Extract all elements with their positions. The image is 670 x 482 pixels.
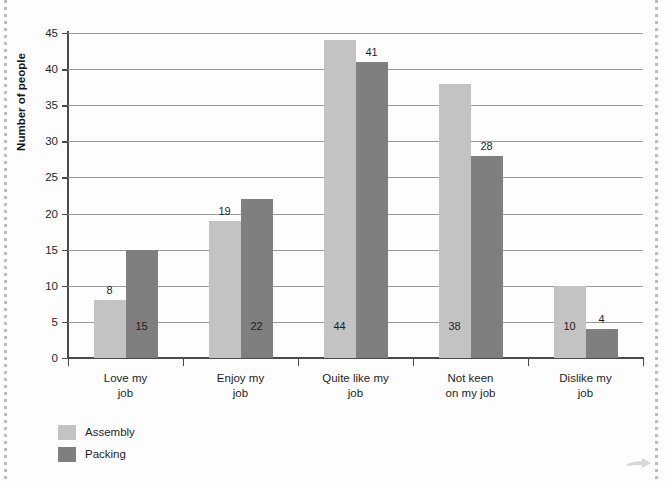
bar-packing[interactable] — [356, 62, 388, 358]
x-tick-mark — [643, 358, 644, 366]
x-category-line: on my job — [406, 386, 536, 401]
bar-packing[interactable] — [241, 199, 273, 358]
y-tick-label: 25 — [18, 171, 58, 183]
x-category-line: job — [176, 386, 306, 401]
legend-swatch — [58, 447, 76, 462]
x-tick-mark — [528, 358, 529, 366]
bar-value-label: 19 — [205, 205, 245, 217]
y-tick-label: 0 — [18, 352, 58, 364]
bar-packing[interactable] — [586, 329, 618, 358]
y-tick-label: 5 — [18, 316, 58, 328]
x-category-line: Quite like my — [291, 371, 421, 386]
x-category-line: job — [521, 386, 651, 401]
y-axis-tick-labels: 454035302520151050 — [0, 0, 58, 482]
bar-assembly[interactable] — [324, 40, 356, 358]
bar-packing[interactable] — [471, 156, 503, 358]
legend-label: Assembly — [85, 426, 135, 438]
x-category-line: job — [291, 386, 421, 401]
y-tick-mark — [62, 177, 67, 178]
y-tick-label: 20 — [18, 208, 58, 220]
y-tick-mark — [62, 214, 67, 215]
y-tick-mark — [62, 69, 67, 70]
bar-value-label: 15 — [122, 320, 162, 332]
y-tick-mark — [62, 33, 67, 34]
bar-value-label: 4 — [582, 313, 622, 325]
bar-group: 815 — [68, 33, 183, 358]
bar-group: 4441 — [298, 33, 413, 358]
bar-value-label: 28 — [467, 140, 507, 152]
chart-page: Number of people 454035302520151050 8151… — [0, 0, 670, 482]
bar-assembly[interactable] — [209, 221, 241, 358]
y-tick-label: 30 — [18, 135, 58, 147]
bar-value-label: 22 — [237, 320, 277, 332]
legend-swatch — [58, 425, 76, 440]
x-category-label: Quite like myjob — [291, 371, 421, 401]
y-tick-mark — [62, 358, 67, 359]
bar-group: 104 — [528, 33, 643, 358]
x-category-label: Love myjob — [61, 371, 191, 401]
legend-label: Packing — [85, 448, 126, 460]
bar-packing[interactable] — [126, 250, 158, 358]
x-category-line: job — [61, 386, 191, 401]
bar-value-label: 38 — [435, 320, 475, 332]
y-tick-label: 45 — [18, 27, 58, 39]
bar-value-label: 8 — [90, 284, 130, 296]
bar-group: 3828 — [413, 33, 528, 358]
x-tick-mark — [413, 358, 414, 366]
x-category-line: Dislike my — [521, 371, 651, 386]
x-tick-mark — [298, 358, 299, 366]
x-tick-mark — [183, 358, 184, 366]
legend-item[interactable]: Packing — [58, 443, 135, 465]
grouped-bar-chart: Number of people 454035302520151050 8151… — [0, 0, 670, 482]
y-tick-label: 40 — [18, 63, 58, 75]
bar-assembly[interactable] — [439, 84, 471, 358]
x-category-line: Not keen — [406, 371, 536, 386]
bar-group: 1922 — [183, 33, 298, 358]
y-tick-mark — [62, 141, 67, 142]
plot-area: 815192244413828104 — [68, 33, 643, 358]
x-tick-mark — [68, 358, 69, 366]
arrow-right-icon — [626, 456, 652, 470]
bar-value-label: 41 — [352, 46, 392, 58]
y-tick-label: 35 — [18, 99, 58, 111]
legend-item[interactable]: Assembly — [58, 421, 135, 443]
y-tick-mark — [62, 286, 67, 287]
y-tick-mark — [62, 250, 67, 251]
x-category-line: Love my — [61, 371, 191, 386]
x-category-line: Enjoy my — [176, 371, 306, 386]
y-tick-mark — [62, 322, 67, 323]
y-tick-label: 10 — [18, 280, 58, 292]
x-category-label: Not keenon my job — [406, 371, 536, 401]
y-tick-mark — [62, 105, 67, 106]
x-category-label: Enjoy myjob — [176, 371, 306, 401]
bar-value-label: 44 — [320, 320, 360, 332]
chart-legend: AssemblyPacking — [58, 421, 135, 465]
y-tick-label: 15 — [18, 244, 58, 256]
x-category-label: Dislike myjob — [521, 371, 651, 401]
